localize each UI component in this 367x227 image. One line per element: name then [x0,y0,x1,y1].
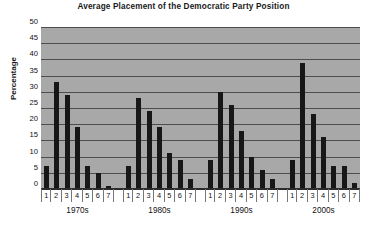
x-axis-tick-label: 2 [215,189,225,202]
bar [300,63,305,189]
y-axis-tick-label: 15 [22,131,38,139]
bar [229,105,234,189]
x-axis-tick-label: 4 [318,189,328,202]
y-axis-tick-label: 50 [22,18,38,26]
bar [290,160,295,189]
bar [178,160,183,189]
x-axis-tick-label: 3 [62,189,72,202]
bar [157,127,162,189]
y-axis-tick-label: 25 [22,99,38,107]
x-axis-tick-label: 4 [154,189,164,202]
y-axis-tick-label: 20 [22,115,38,123]
x-axis-tick-label: 5 [83,189,93,202]
x-axis-tick-label: 3 [308,189,318,202]
x-axis-tick-labels: 1234567123456712345671234567 [41,189,360,202]
x-axis-tick-label: 1 [41,189,51,202]
x-axis-tick-label: 2 [51,189,61,202]
y-axis-title: Percentage [9,39,18,119]
x-axis-tick-label: 4 [72,189,82,202]
x-axis-tick-label: 4 [236,189,246,202]
x-axis-group-labels: 1970s1980s1990s2000s [41,204,360,217]
bars-layer [41,27,360,189]
x-axis-tick-label: 5 [165,189,175,202]
bar-chart-figure: Average Placement of the Democratic Part… [0,0,367,227]
bar [311,114,316,189]
bar [44,166,49,189]
x-axis-tick-label: 1 [205,189,215,202]
x-axis-tick-label: 6 [175,189,185,202]
plot-area [41,27,360,189]
x-axis-tick-label: 6 [339,189,349,202]
bar [249,157,254,189]
bar [167,153,172,189]
bar [208,160,213,189]
x-axis-tick-label: 1 [287,189,297,202]
bar [65,95,70,189]
y-axis-tick-labels: 50454035302520151050 [22,22,38,189]
bar [96,173,101,189]
x-axis-group-label: 1970s [41,204,114,217]
x-axis-tick-label: 2 [297,189,307,202]
bar [85,166,90,189]
bar [136,98,141,189]
x-axis-tick-label: 5 [247,189,257,202]
chart-title: Average Placement of the Democratic Part… [0,2,367,11]
x-axis-tick-label: 3 [144,189,154,202]
y-axis-tick-label: 30 [22,83,38,91]
bar [260,170,265,189]
y-axis-tick-label: 40 [22,50,38,58]
y-axis-tick-label: 35 [22,67,38,75]
y-axis-tick-label: 0 [22,180,38,188]
bar [126,166,131,189]
x-axis-tick-label: 7 [268,189,278,202]
x-axis-tick-label: 3 [226,189,236,202]
x-axis-tick-label: 2 [133,189,143,202]
x-axis-group-label: 1980s [123,204,196,217]
x-axis-group-label: 2000s [287,204,360,217]
bar [342,166,347,189]
bar [147,111,152,189]
bar [239,131,244,189]
x-axis-tick-label: 1 [123,189,133,202]
x-axis-tick-label: 7 [104,189,114,202]
y-axis-tick-label: 45 [22,34,38,42]
x-axis-tick-label: 7 [186,189,196,202]
bar [54,82,59,189]
x-axis-tick-label: 6 [257,189,267,202]
bar [75,127,80,189]
bar [218,92,223,189]
x-axis-group-label: 1990s [205,204,278,217]
y-axis-tick-label: 5 [22,164,38,172]
x-axis-tick-label: 6 [93,189,103,202]
bar [331,166,336,189]
y-axis-tick-label: 10 [22,148,38,156]
x-axis-tick-label: 5 [329,189,339,202]
x-axis-tick-label: 7 [350,189,360,202]
bar [321,137,326,189]
